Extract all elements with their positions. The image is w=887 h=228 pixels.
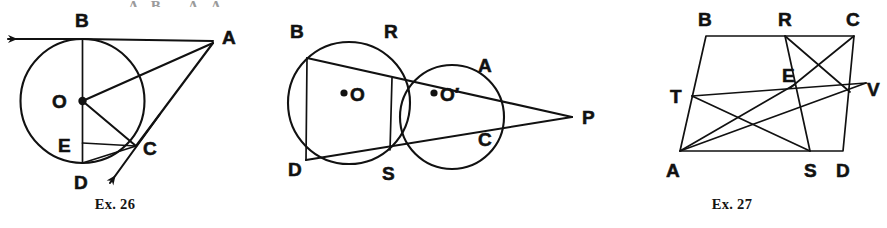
- segment-t-s: [692, 96, 810, 151]
- circle-o-prime: [400, 65, 504, 169]
- ex-27-drawing: B R A P O O′ C D S: [282, 0, 612, 200]
- caption-ex-26: Ex. 26: [45, 196, 185, 213]
- label-c: C: [478, 129, 492, 150]
- center-point-o: [340, 89, 347, 96]
- label-b: B: [698, 9, 712, 30]
- secant-d-s-c-p: [306, 117, 572, 160]
- figure-sheet: AB AA: [0, 0, 887, 228]
- center-point-o: [78, 97, 86, 105]
- segment-a-v: [680, 83, 866, 151]
- center-point-o-prime: [430, 89, 437, 96]
- figure-ex-28: B R C E V T A S D Ex. 28: [612, 0, 887, 228]
- label-d: D: [836, 160, 850, 181]
- label-o: O: [350, 84, 365, 105]
- common-chord-r-s: [390, 78, 392, 150]
- label-c: C: [143, 138, 157, 159]
- label-c: C: [846, 9, 860, 30]
- figure-ex-27: B R A P O O′ C D S Ex. 27: [282, 0, 612, 228]
- label-e: E: [58, 135, 71, 156]
- label-b: B: [290, 21, 304, 42]
- label-r: R: [778, 9, 792, 30]
- segment-b-a: [83, 39, 214, 41]
- segment-o-a: [83, 43, 214, 101]
- parallelogram-abcd: [680, 36, 854, 151]
- label-v: V: [867, 79, 880, 100]
- label-t: T: [670, 86, 682, 107]
- label-r: R: [384, 21, 398, 42]
- label-o-prime: O′: [440, 84, 460, 105]
- label-a: A: [222, 27, 236, 48]
- label-a: A: [478, 55, 492, 76]
- label-e: E: [782, 65, 795, 86]
- chord-b-d: [306, 58, 307, 160]
- segment-o-c: [83, 101, 137, 146]
- ex-26-drawing: B A O C D E: [0, 0, 290, 200]
- figure-ex-26: B A O C D E Ex. 26: [0, 0, 290, 228]
- segment-c-e: [790, 36, 854, 88]
- label-b: B: [75, 10, 89, 31]
- segment-d-c: [83, 146, 137, 163]
- label-s: S: [804, 160, 817, 181]
- label-d: D: [288, 159, 302, 180]
- label-d: D: [74, 172, 88, 193]
- ex-28-drawing: B R C E V T A S D: [612, 0, 887, 200]
- label-a: A: [666, 160, 680, 181]
- label-o: O: [52, 91, 67, 112]
- label-p: P: [582, 107, 595, 128]
- label-s: S: [382, 163, 395, 184]
